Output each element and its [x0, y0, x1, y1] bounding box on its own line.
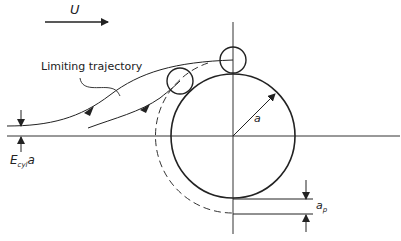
capture-width-sub: cyl	[18, 161, 28, 169]
radius-label: a	[254, 112, 261, 125]
diagram-svg	[0, 0, 401, 241]
particle-radius-main: a	[316, 199, 323, 212]
trajectory-curve	[88, 81, 180, 128]
capture-width-main: E	[10, 153, 18, 167]
flow-velocity-label: U	[70, 2, 80, 17]
trajectory-arrow-1	[84, 106, 94, 116]
diagram-canvas: U Limiting trajectory a Ecyla ap	[0, 0, 401, 241]
limiting-trajectory-label: Limiting trajectory	[41, 60, 142, 73]
label-leader	[80, 78, 120, 96]
capture-width-label: Ecyla	[10, 153, 35, 169]
particle-radius-label: ap	[316, 199, 327, 214]
capture-width-suffix: a	[28, 153, 35, 167]
particle-radius-sub: p	[323, 206, 327, 214]
